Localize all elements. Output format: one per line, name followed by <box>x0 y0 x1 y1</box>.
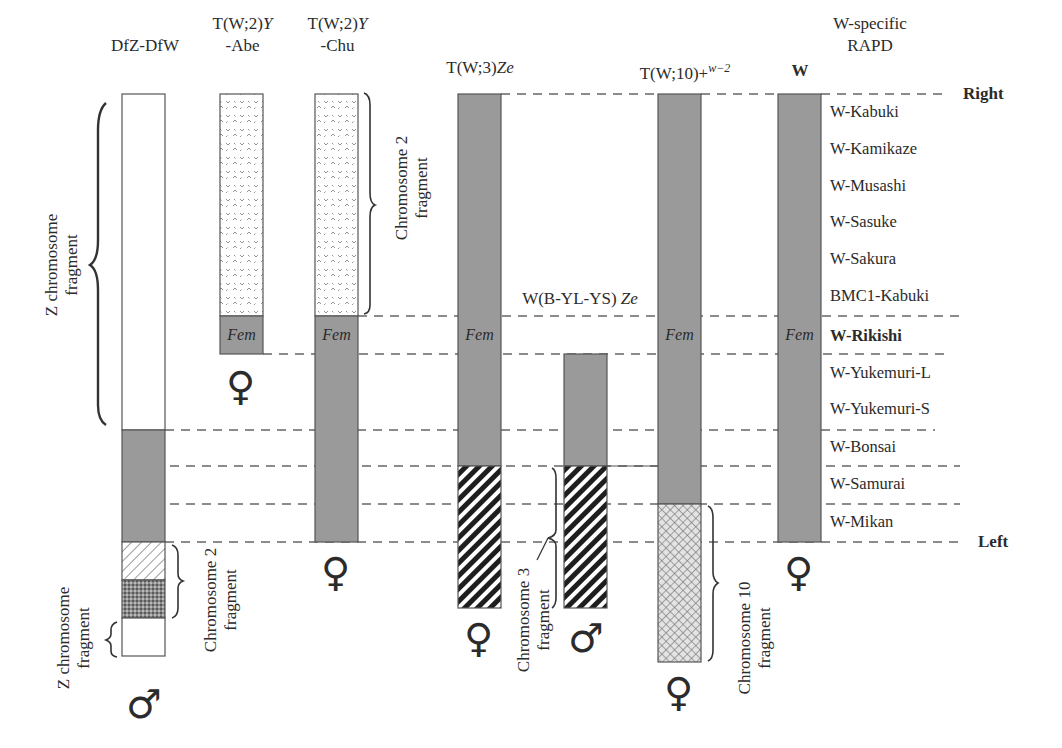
label-text: T(W;10)+ <box>640 64 708 83</box>
marker-bmc1-kabuki: BMC1-Kabuki <box>830 286 929 306</box>
column-abe <box>220 94 263 354</box>
marker-w-musashi: W-Musashi <box>830 176 906 196</box>
annotation-line: fragment <box>62 234 81 295</box>
label-text: W(B-YL-YS) <box>522 289 621 308</box>
marker-w-kabuki: W-Kabuki <box>830 102 899 122</box>
marker-w-yukemuri-s: W-Yukemuri-S <box>830 399 930 419</box>
label-text: -Abe <box>226 36 260 55</box>
column-label-w-b-yl-ys-ze: W(B-YL-YS) Ze <box>500 288 660 310</box>
column-label-t-w10: T(W;10)+w−2 <box>620 57 750 85</box>
marker-w-sakura: W-Sakura <box>830 249 896 269</box>
marker-w-sasuke: W-Sasuke <box>830 212 897 232</box>
male-symbol-icon: ♂ <box>126 684 162 724</box>
female-symbol-icon: ♀ <box>664 672 693 712</box>
annotation-line: Z chromosome <box>54 587 73 689</box>
annotation-line: fragment <box>221 569 240 630</box>
annotation-line: fragment <box>74 607 93 668</box>
column-label-w: W <box>780 60 820 82</box>
female-symbol-icon: ♀ <box>464 618 493 658</box>
header-line: W-specific <box>833 14 907 33</box>
annotation-line: Chromosome 3 <box>514 568 533 672</box>
annotation-line: fragment <box>755 607 774 668</box>
column-label-abe: T(W;2)Y -Abe <box>190 13 295 57</box>
label-superscript: w−2 <box>708 61 730 75</box>
annotation-z-fragment-bottom: Z chromosome fragment <box>54 568 94 708</box>
label-text: DfZ-DfW <box>111 36 179 55</box>
annotation-line: Chromosome 2 <box>201 548 220 652</box>
column-label-dfz-dfw: DfZ-DfW <box>95 35 195 57</box>
column-t-w3-ze <box>458 94 501 608</box>
annotation-line: Chromosome 2 <box>392 136 411 240</box>
label-italic: Y <box>358 14 367 33</box>
column-w <box>778 94 821 542</box>
fem-label-chu: Fem <box>315 326 358 344</box>
annotation-line: fragment <box>412 157 431 218</box>
column-chu <box>315 94 358 542</box>
header-line: RAPD <box>847 36 892 55</box>
label-italic: Y <box>263 14 272 33</box>
fem-label-w: Fem <box>778 326 821 344</box>
label-text: T(W;3) <box>446 58 496 77</box>
annotation-line: Z chromosome <box>42 214 61 316</box>
annotation-chr3: Chromosome 3 fragment <box>514 550 554 690</box>
label-italic: Ze <box>497 58 514 77</box>
marker-w-mikan: W-Mikan <box>830 512 893 532</box>
label-text: W <box>792 61 809 80</box>
female-symbol-icon: ♀ <box>784 552 813 592</box>
marker-w-yukemuri-l: W-Yukemuri-L <box>830 363 931 383</box>
markers-header: W-specific RAPD <box>825 13 915 57</box>
column-label-chu: T(W;2)Y -Chu <box>285 13 390 57</box>
marker-w-rikishi: W-Rikishi <box>830 326 902 346</box>
marker-w-bonsai: W-Bonsai <box>830 437 896 457</box>
annotation-chr2-dfz: Chromosome 2 fragment <box>201 530 241 670</box>
label-text: -Chu <box>321 36 355 55</box>
end-label-right: Right <box>963 84 1004 104</box>
label-text: T(W;2) <box>308 14 358 33</box>
chromosome-diagram: DfZ-DfW T(W;2)Y -Abe T(W;2)Y -Chu T(W;3)… <box>0 0 1062 748</box>
female-symbol-icon: ♀ <box>321 552 350 592</box>
female-symbol-icon: ♀ <box>226 366 255 406</box>
column-label-t-w3-ze: T(W;3)Ze <box>425 57 535 79</box>
marker-w-samurai: W-Samurai <box>830 474 905 494</box>
label-text: T(W;2) <box>213 14 263 33</box>
annotation-chr10: Chromosome 10 fragment <box>735 563 775 713</box>
male-symbol-icon: ♂ <box>568 618 604 658</box>
column-dfz-dfw <box>122 94 165 656</box>
column-t-w10 <box>658 94 701 662</box>
fem-label-t-w3: Fem <box>458 326 501 344</box>
fem-label-abe: Fem <box>220 326 263 344</box>
end-label-left: Left <box>978 532 1008 552</box>
annotation-chr2-chu: Chromosome 2 fragment <box>392 118 432 258</box>
label-italic: Ze <box>621 289 638 308</box>
marker-w-kamikaze: W-Kamikaze <box>830 139 917 159</box>
annotation-z-fragment-top: Z chromosome fragment <box>42 195 82 335</box>
annotation-line: fragment <box>534 589 553 650</box>
column-w-b-yl-ys-ze <box>564 354 607 608</box>
fem-label-t-w10: Fem <box>658 326 701 344</box>
annotation-line: Chromosome 10 <box>735 582 754 695</box>
